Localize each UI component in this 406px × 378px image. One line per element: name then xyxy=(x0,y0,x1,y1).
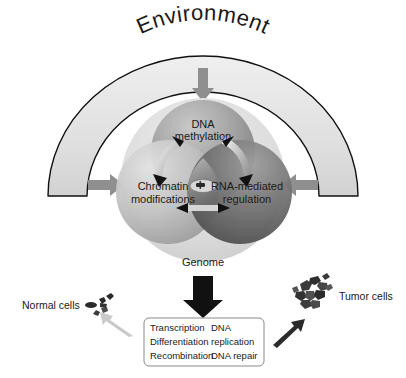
dna-methylation-line1: DNA xyxy=(191,118,215,130)
chromatin-line1: Chromatin xyxy=(138,180,189,192)
processes-box: Transcription Differentiation Recombinat… xyxy=(144,318,264,366)
arrow-to-tumor-cells xyxy=(273,319,305,348)
genome-to-processes-arrow xyxy=(183,276,223,318)
chromatin-line2: modifications xyxy=(131,193,196,205)
genome-label: Genome xyxy=(182,256,224,268)
tumor-cells-cluster-icon xyxy=(292,273,333,309)
process-replication: replication xyxy=(211,336,254,347)
normal-cells-cluster-icon xyxy=(85,293,114,316)
process-differentiation: Differentiation xyxy=(150,336,208,347)
process-dna-repair: DNA repair xyxy=(211,350,257,361)
tumor-cells-label: Tumor cells xyxy=(339,290,393,302)
label-chromatin-modifications: Chromatin modifications xyxy=(131,180,196,205)
epigenetics-diagram: Environment xyxy=(0,0,406,378)
tumor-cells-group: Tumor cells xyxy=(273,273,393,348)
environment-label: Environment xyxy=(133,0,274,39)
rna-line1: RNA-mediated xyxy=(211,180,283,192)
process-transcription: Transcription xyxy=(150,322,205,333)
dna-methylation-line2: methylation xyxy=(175,130,231,142)
arrow-to-normal-cells xyxy=(100,312,133,337)
process-recombination: Recombination xyxy=(150,350,213,361)
process-dna: DNA xyxy=(211,322,232,333)
normal-cells-group: Normal cells xyxy=(22,293,133,337)
rna-line2: regulation xyxy=(223,193,271,205)
normal-cells-label: Normal cells xyxy=(22,299,80,311)
